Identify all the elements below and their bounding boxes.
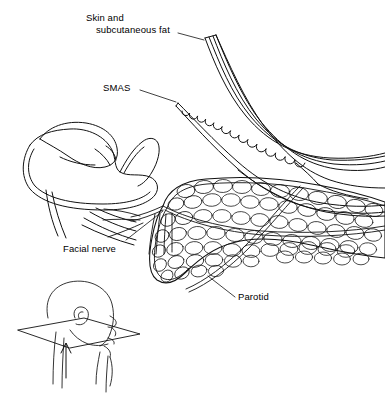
label-parotid: Parotid (238, 291, 269, 303)
anatomy-figure: Skin andsubcutaneous fat SMAS Facial ner… (0, 0, 385, 399)
label-smas: SMAS (103, 82, 130, 94)
label-skin-line1: Skin and (86, 12, 124, 23)
anatomy-illustration (0, 0, 385, 399)
label-skin-line2: subcutaneous fat (86, 24, 170, 36)
label-skin-subcutaneous-fat: Skin andsubcutaneous fat (86, 12, 170, 35)
label-facial-nerve: Facial nerve (63, 243, 116, 255)
